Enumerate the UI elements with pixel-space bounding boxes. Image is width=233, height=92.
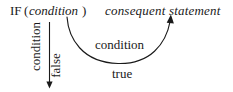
consequent-statement: consequent statement (105, 4, 221, 17)
if-statement-flow-diagram: IF ( condition ) consequent statement co… (0, 0, 233, 92)
false-branch-label: false (49, 46, 62, 86)
curve-condition-label: condition (95, 38, 144, 51)
vertical-condition-label: condition (29, 11, 42, 83)
if-keyword: IF (10, 4, 22, 17)
true-branch-label: true (112, 67, 132, 80)
close-paren: ) (82, 4, 86, 17)
